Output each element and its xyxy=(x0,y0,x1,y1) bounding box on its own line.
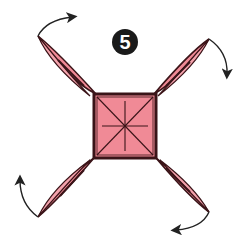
arrow-bottom-left xyxy=(20,180,38,217)
arrow-bottom-right xyxy=(176,212,209,230)
center-square xyxy=(94,94,156,158)
origami-diagram: 5 xyxy=(0,0,247,252)
arrow-top-right xyxy=(209,39,227,74)
flap-bottom-right xyxy=(156,158,209,212)
flap-top-left xyxy=(38,36,96,96)
step-number-badge: 5 xyxy=(112,29,138,55)
flap-bottom-left xyxy=(38,158,94,217)
flap-top-right xyxy=(154,39,209,96)
arrow-top-left xyxy=(38,17,72,36)
